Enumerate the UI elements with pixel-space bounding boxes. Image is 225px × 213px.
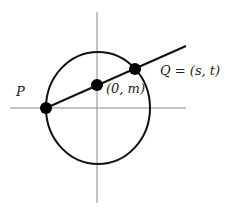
label-p: P (15, 84, 25, 99)
label-center: (0, m) (106, 81, 145, 96)
diagram-canvas: P (0, m) Q = (s, t) (0, 0, 225, 213)
point-q (129, 63, 141, 75)
point-p (40, 102, 52, 114)
label-q: Q = (s, t) (160, 63, 220, 78)
point-center (91, 79, 103, 91)
